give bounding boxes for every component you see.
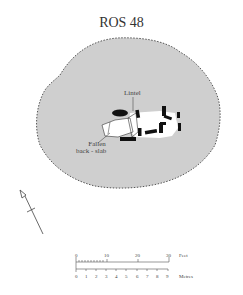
site-plan xyxy=(0,0,243,295)
label-lintel: Lintel xyxy=(124,90,141,97)
north-arrow xyxy=(20,190,43,234)
scale-bar xyxy=(76,257,169,272)
feet-label: Feet xyxy=(179,252,188,259)
metres-label: Metres xyxy=(179,273,193,280)
label-back-slab: back - slab xyxy=(76,148,106,155)
cairn-outline xyxy=(37,38,221,188)
